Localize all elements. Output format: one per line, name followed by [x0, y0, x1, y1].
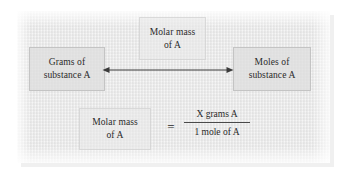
- panel-edge-fade-bottom: [17, 146, 330, 163]
- conversion-factor-top-line1: Molar mass: [150, 26, 196, 39]
- equation-left-line1: Molar mass: [92, 116, 138, 129]
- grams-box-line1: Grams of: [49, 56, 85, 69]
- moles-box-line1: Moles of: [255, 56, 290, 69]
- conversion-factor-label-top: Molar mass of A: [139, 17, 206, 60]
- fraction-denominator: 1 mole of A: [184, 123, 250, 139]
- grams-of-substance-box: Grams of substance A: [29, 47, 105, 91]
- fraction-numerator: X grams A: [184, 107, 250, 121]
- double-headed-arrow-svg: [102, 62, 234, 78]
- double-headed-arrow-icon: [102, 62, 234, 78]
- diagram-canvas: Molar mass of A Grams of substance A Mol…: [0, 0, 344, 170]
- conversion-factor-top-line2: of A: [164, 39, 181, 52]
- moles-of-substance-box: Moles of substance A: [233, 47, 311, 91]
- molar-mass-fraction: X grams A 1 mole of A: [184, 107, 250, 139]
- equation-left-line2: of A: [106, 129, 123, 142]
- grams-box-line2: substance A: [44, 69, 91, 82]
- equation-left-term: Molar mass of A: [79, 108, 151, 150]
- panel-edge-fade-right: [312, 11, 330, 163]
- moles-box-line2: substance A: [249, 69, 296, 82]
- equals-sign: =: [163, 119, 179, 135]
